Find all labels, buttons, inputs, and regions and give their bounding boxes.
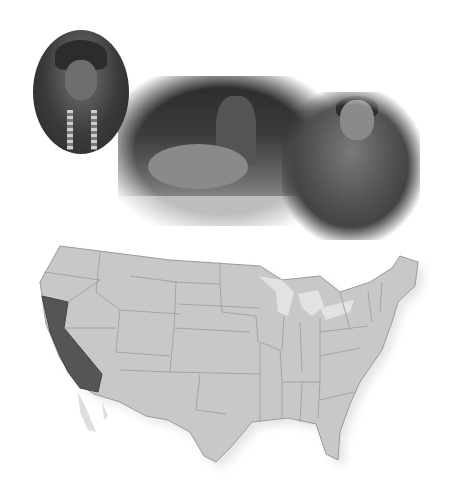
us-land: [40, 246, 418, 462]
necklace-beads: [91, 110, 97, 150]
necklace-beads: [67, 110, 73, 150]
face: [340, 100, 374, 140]
face: [65, 60, 97, 100]
elder-portrait-photo: [282, 92, 420, 240]
oval-portrait-photo: [33, 30, 129, 154]
us-map: [20, 232, 440, 482]
woven-basket: [148, 144, 248, 189]
